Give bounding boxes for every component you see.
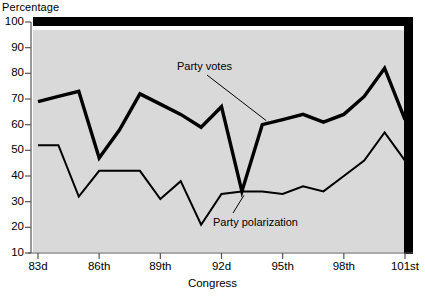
x-tick-marks (38, 253, 405, 259)
y-tick-label: 40 (0, 170, 24, 181)
x-tick-label: 92d (199, 260, 245, 272)
right-rule (404, 17, 413, 254)
y-tick-label: 10 (0, 247, 24, 258)
y-tick-label: 90 (0, 42, 24, 53)
x-tick-label: 86th (76, 260, 122, 272)
annotation-label-party-votes: Party votes (177, 60, 232, 72)
x-tick-label: 95th (260, 260, 306, 272)
y-tick-label: 30 (0, 196, 24, 207)
y-tick-label: 70 (0, 93, 24, 104)
chart-container: Percentage 100908070605040302010 83d86th… (0, 0, 425, 301)
y-tick-label: 80 (0, 67, 24, 78)
y-tick-label: 20 (0, 221, 24, 232)
x-tick-label: 98th (321, 260, 367, 272)
y-tick-marks (25, 22, 31, 253)
top-rule (33, 17, 413, 26)
x-tick-label: 83d (15, 260, 61, 272)
x-tick-label: 89th (137, 260, 183, 272)
y-tick-label: 60 (0, 119, 24, 130)
annotation-label-party-polarization: Party polarization (213, 216, 298, 228)
x-tick-label: 101st (382, 260, 425, 272)
chart-plot-area (0, 0, 425, 301)
y-tick-label: 50 (0, 144, 24, 155)
y-tick-label: 100 (0, 16, 24, 27)
x-axis-title: Congress (0, 277, 425, 289)
